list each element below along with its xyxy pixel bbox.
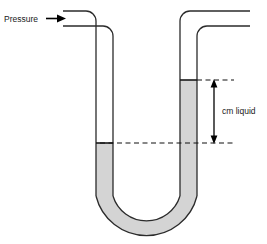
arrow-head-right-icon [57,15,66,23]
measurement-label: cm liquid [222,106,256,116]
manometer-figure: cm liquid Pressure [0,0,267,244]
manometer-diagram: cm liquid Pressure [0,0,267,244]
liquid-fill-shape [96,80,197,236]
pressure-label: Pressure [4,14,38,24]
tube-outline-group [63,11,250,236]
liquid-column-group [96,80,197,236]
left-tube-outer-wall [63,11,96,196]
measurement-arrow-group [211,79,218,144]
pressure-arrow-group [46,15,66,23]
